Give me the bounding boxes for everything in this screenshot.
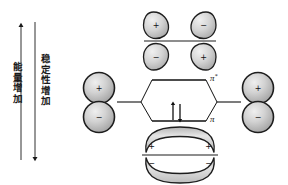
right-to-antibonding-line (206, 80, 217, 102)
pi-star-orbital-picture: + − − + (144, 12, 217, 70)
antibonding-energy-level: π* (152, 73, 218, 83)
pi-bonding-lower-lobe (146, 158, 215, 184)
figure-canvas: 能 量 增 加 稳 定 性 增 加 (0, 0, 288, 185)
antibonding-level-label: π* (210, 73, 218, 83)
right-atomic-orbital: + − (243, 73, 274, 133)
left-to-bonding-line (141, 102, 152, 121)
left-to-antibonding-line (141, 80, 152, 102)
pi-bonding-orbital-picture: + + − − (142, 127, 218, 183)
bonding-energy-level: π (152, 104, 215, 124)
pi-star-top-right-sign: − (200, 21, 207, 30)
pi-bonding-upper-right-sign: + (205, 142, 212, 151)
right-orbital-top-sign: + (255, 84, 262, 93)
pi-star-top-left-sign: + (153, 21, 160, 30)
pi-bonding-lower-right-sign: − (205, 159, 212, 168)
left-orbital-bottom-sign: − (96, 113, 103, 122)
left-atomic-orbital: + − (84, 73, 115, 133)
correlation-lines (117, 80, 241, 121)
pi-bonding-upper-left-sign: + (148, 142, 155, 151)
pi-bonding-upper-lobe (146, 127, 215, 153)
left-orbital-top-sign: + (96, 84, 103, 93)
right-orbital-bottom-sign: − (255, 113, 262, 122)
pi-star-bottom-right-sign: + (200, 53, 207, 62)
mo-diagram-svg: + − + − π* (0, 0, 288, 185)
pi-bonding-lower-left-sign: − (148, 159, 155, 168)
bonding-level-label: π (210, 114, 215, 124)
pi-star-bottom-left-sign: − (153, 53, 160, 62)
